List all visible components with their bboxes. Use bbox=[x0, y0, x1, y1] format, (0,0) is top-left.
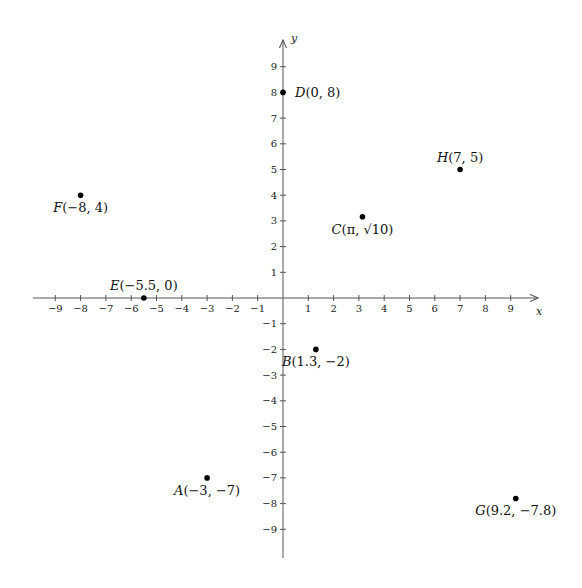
point-label: B(1.3, −2) bbox=[281, 354, 350, 369]
y-tick-label: 1 bbox=[271, 267, 277, 278]
y-tick-label: 2 bbox=[271, 241, 277, 252]
x-tick-label: −4 bbox=[174, 303, 189, 314]
y-tick-label: −8 bbox=[262, 498, 277, 509]
x-tick-label: 4 bbox=[381, 303, 387, 314]
axes: xy bbox=[33, 32, 543, 558]
y-tick-label: 6 bbox=[271, 138, 277, 149]
point-label: C(π, √10) bbox=[332, 222, 394, 237]
y-tick-label: −2 bbox=[262, 344, 277, 355]
x-tick-label: −1 bbox=[250, 303, 265, 314]
point-marker bbox=[141, 295, 147, 301]
point-label: D(0, 8) bbox=[294, 85, 340, 100]
y-tick-label: −4 bbox=[262, 395, 277, 406]
point-marker bbox=[313, 347, 319, 353]
y-axis-label: y bbox=[290, 32, 298, 45]
y-tick-label: −5 bbox=[262, 421, 277, 432]
y-tick-label: 4 bbox=[271, 190, 277, 201]
y-tick-label: −3 bbox=[262, 370, 277, 381]
point-marker bbox=[78, 192, 84, 198]
point-marker bbox=[513, 496, 519, 502]
point-c: C(π, √10) bbox=[332, 214, 394, 237]
x-tick-label: −7 bbox=[99, 303, 114, 314]
point-f: F(−8, 4) bbox=[52, 192, 108, 215]
x-tick-label: −8 bbox=[73, 303, 88, 314]
point-e: E(−5.5, 0) bbox=[109, 278, 178, 301]
point-marker bbox=[280, 90, 286, 96]
y-tick-label: 5 bbox=[271, 164, 277, 175]
y-tick-label: 9 bbox=[271, 61, 277, 72]
points: A(−3, −7)B(1.3, −2)C(π, √10)D(0, 8)E(−5.… bbox=[52, 85, 556, 518]
x-tick-label: 1 bbox=[305, 303, 311, 314]
x-tick-label: −5 bbox=[149, 303, 164, 314]
point-b: B(1.3, −2) bbox=[281, 347, 350, 370]
x-tick-label: −2 bbox=[225, 303, 240, 314]
point-marker bbox=[360, 214, 366, 220]
x-tick-label: 6 bbox=[432, 303, 438, 314]
x-tick-label: −9 bbox=[48, 303, 63, 314]
point-label: A(−3, −7) bbox=[173, 483, 240, 498]
point-h: H(7, 5) bbox=[436, 150, 483, 173]
y-tick-label: 8 bbox=[271, 87, 277, 98]
x-tick-label: 8 bbox=[482, 303, 488, 314]
coordinate-plane: xy −9−8−7−6−5−4−3−2−1123456789−9−8−7−6−5… bbox=[0, 0, 582, 588]
point-a: A(−3, −7) bbox=[173, 475, 240, 498]
x-tick-label: 7 bbox=[457, 303, 463, 314]
point-label: H(7, 5) bbox=[436, 150, 483, 165]
point-label: E(−5.5, 0) bbox=[109, 278, 178, 293]
x-tick-label: 5 bbox=[406, 303, 412, 314]
point-label: G(9.2, −7.8) bbox=[475, 503, 556, 518]
x-tick-label: 9 bbox=[508, 303, 514, 314]
point-g: G(9.2, −7.8) bbox=[475, 496, 556, 519]
y-tick-label: −6 bbox=[262, 447, 277, 458]
x-axis-label: x bbox=[536, 305, 543, 318]
point-label: F(−8, 4) bbox=[52, 200, 108, 215]
y-tick-label: 7 bbox=[271, 113, 277, 124]
y-tick-label: −9 bbox=[262, 524, 277, 535]
point-marker bbox=[457, 167, 463, 173]
x-tick-label: 2 bbox=[330, 303, 336, 314]
point-marker bbox=[204, 475, 210, 481]
y-tick-label: −7 bbox=[262, 472, 277, 483]
point-d: D(0, 8) bbox=[280, 85, 340, 100]
x-tick-label: 3 bbox=[356, 303, 362, 314]
x-tick-label: −6 bbox=[124, 303, 139, 314]
y-tick-label: −1 bbox=[262, 318, 277, 329]
x-tick-label: −3 bbox=[200, 303, 215, 314]
y-tick-label: 3 bbox=[271, 215, 277, 226]
